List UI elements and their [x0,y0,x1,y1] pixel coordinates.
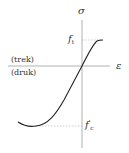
epsilon-axis-label: ε [116,61,121,71]
fc-label: f′c [85,120,94,131]
stress-strain-diagram: σ ε (trek) (druk) ft f′c [0,0,129,153]
sigma-axis-label: σ [78,6,85,16]
fc-subscript: c [90,124,93,131]
compression-label: (druk) [11,69,36,77]
ft-label: ft [68,34,74,45]
tension-label: (trek) [11,56,34,64]
ft-subscript: t [72,38,74,45]
stress-strain-curve [18,40,103,126]
